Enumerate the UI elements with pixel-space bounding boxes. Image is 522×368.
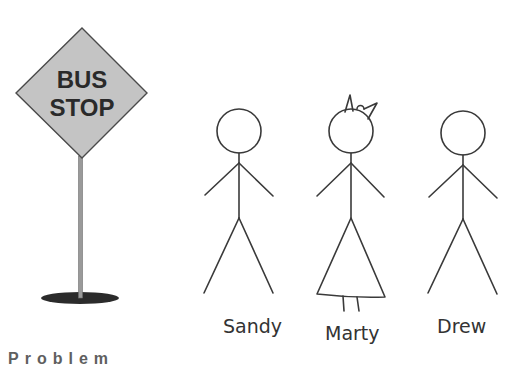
- name-label-sandy: Sandy: [223, 315, 282, 337]
- hair-bow-icon: [345, 95, 377, 119]
- sign-text-line2: STOP: [50, 94, 115, 121]
- name-label-marty: Marty: [325, 322, 380, 344]
- sign-diamond: [16, 28, 147, 158]
- sign-pole: [79, 156, 83, 298]
- bus-stop-sign: BUS STOP: [16, 28, 147, 304]
- head: [329, 109, 373, 153]
- name-label-drew: Drew: [437, 315, 486, 337]
- figure-sandy: Sandy: [204, 109, 282, 337]
- head: [217, 109, 261, 153]
- head: [441, 111, 485, 155]
- dress: [317, 218, 385, 297]
- figure-marty: Marty: [317, 95, 385, 344]
- figure-drew: Drew: [428, 111, 497, 337]
- cut-off-caption: Problem: [8, 350, 114, 368]
- sign-text-line1: BUS: [57, 66, 108, 93]
